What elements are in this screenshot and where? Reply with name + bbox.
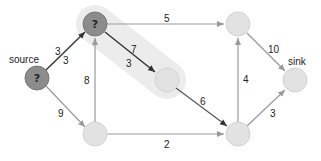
- unknown-marker: ?: [34, 72, 40, 85]
- edge-d-a-capacity: 8: [84, 75, 90, 86]
- node-source[interactable]: ?: [25, 66, 49, 90]
- edge-b-sink[interactable]: [247, 33, 285, 71]
- edge-source-d[interactable]: [46, 86, 85, 127]
- nodes: ? source ? sink: [9, 12, 307, 146]
- node-sink[interactable]: [283, 68, 307, 92]
- node-e[interactable]: [226, 122, 250, 146]
- edge-c-e-capacity: 6: [200, 96, 206, 107]
- edge-e-sink[interactable]: [247, 90, 285, 126]
- edge-source-a-capacity: 3: [55, 46, 61, 57]
- edge-source-d-capacity: 9: [58, 108, 64, 119]
- edge-a-c-capacity: 7: [131, 44, 137, 55]
- node-a[interactable]: ?: [83, 12, 107, 36]
- node-c[interactable]: [155, 68, 179, 92]
- sink-label: sink: [288, 56, 307, 67]
- edge-d-e-capacity: 2: [164, 139, 170, 150]
- unknown-marker: ?: [92, 18, 98, 31]
- edge-a-c-flow: 3: [126, 58, 132, 69]
- flow-network-diagram: 3 3 9 5 7 3 8 2 6 4 10 3 ? source ?: [0, 0, 321, 161]
- node-d[interactable]: [83, 122, 107, 146]
- edge-c-e[interactable]: [176, 88, 227, 126]
- edge-e-b-capacity: 4: [243, 74, 249, 85]
- edge-source-a-flow: 3: [63, 55, 69, 66]
- edge-e-sink-capacity: 3: [270, 108, 276, 119]
- edge-a-b-capacity: 5: [164, 13, 170, 24]
- edge-b-sink-capacity: 10: [268, 44, 280, 55]
- source-label: source: [9, 54, 39, 65]
- node-b[interactable]: [226, 12, 250, 36]
